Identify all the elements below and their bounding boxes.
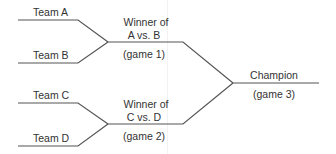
team-d-label: Team D <box>33 132 69 144</box>
game-1-label: (game 1) <box>123 48 165 60</box>
game-2-winner-line2: C vs. D <box>127 111 161 123</box>
bracket-line-team-a <box>18 20 108 42</box>
game-3-label: (game 3) <box>253 88 295 100</box>
bracket-line-team-c <box>18 103 108 124</box>
game-2-label: (game 2) <box>123 130 165 142</box>
team-a-label: Team A <box>33 6 68 18</box>
game-1-winner-line1: Winner of <box>124 16 169 28</box>
champion-label: Champion <box>250 69 298 81</box>
game-2-winner-line1: Winner of <box>124 98 169 110</box>
team-c-label: Team C <box>33 89 69 101</box>
game-1-winner-line2: A vs. B <box>128 29 161 41</box>
team-b-label: Team B <box>33 49 69 61</box>
